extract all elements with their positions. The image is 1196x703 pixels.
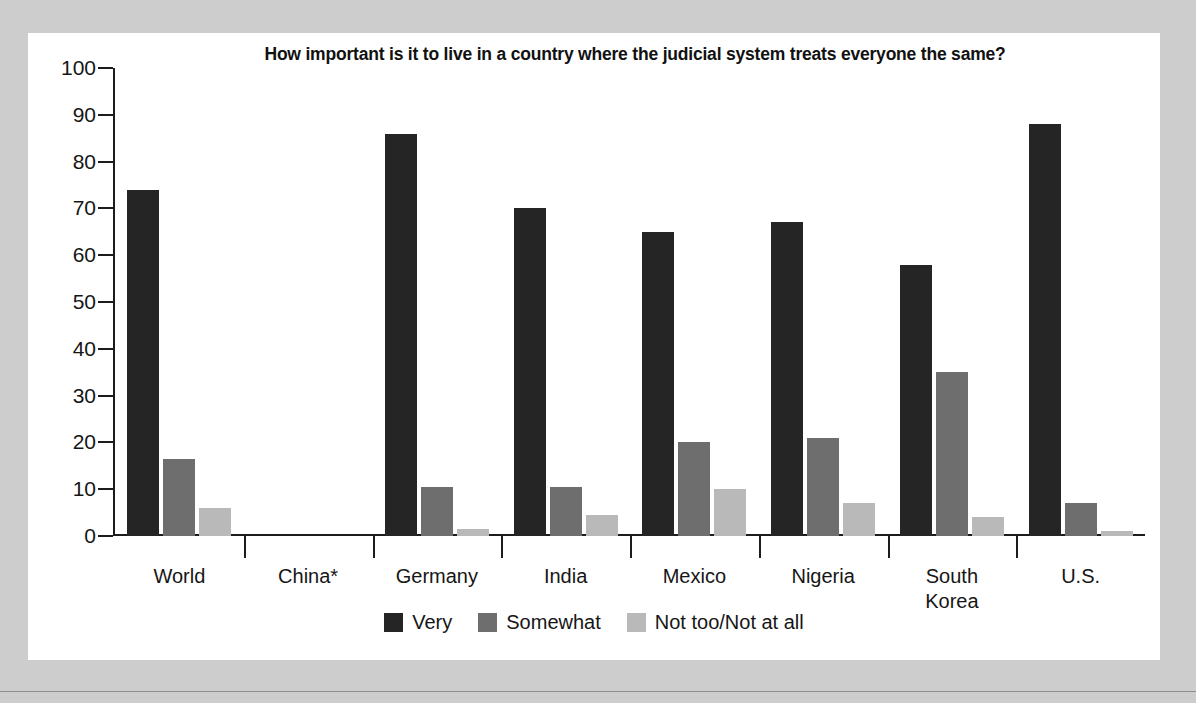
legend-swatch-icon (478, 613, 497, 632)
legend-item: Very (384, 611, 452, 634)
x-axis-group-separator (373, 536, 375, 558)
bar-group (501, 68, 630, 536)
bar-nottoo (972, 517, 1004, 536)
y-axis-tick-label: 10 (34, 477, 96, 501)
bar-group-bars (1016, 68, 1145, 536)
bar-group-bars (759, 68, 888, 536)
x-axis-category-label-line: India (501, 564, 630, 589)
x-axis-category-label: India (501, 564, 630, 589)
y-axis-tick (98, 161, 113, 163)
y-axis-tick-label: 30 (34, 384, 96, 408)
bar-somewhat (936, 372, 968, 536)
bar-group (888, 68, 1017, 536)
x-axis-category-label-line: South (888, 564, 1017, 589)
bar-very (1029, 124, 1061, 536)
legend-item: Not too/Not at all (627, 611, 804, 634)
bar-somewhat (678, 442, 710, 536)
x-axis-category-label: Nigeria (759, 564, 888, 589)
x-axis-category-label-line: Nigeria (759, 564, 888, 589)
bar-somewhat (421, 487, 453, 536)
legend-swatch-icon (384, 613, 403, 632)
y-axis-tick-label: 60 (34, 243, 96, 267)
bar-group (115, 68, 244, 536)
bar-nottoo (586, 515, 618, 536)
y-axis-tick (98, 301, 113, 303)
bar-very (385, 134, 417, 536)
bar-group-bars (630, 68, 759, 536)
x-axis-group-separator (1016, 536, 1018, 558)
legend-label: Very (412, 611, 452, 634)
bar-group-bars (244, 68, 373, 536)
y-axis-tick (98, 254, 113, 256)
x-axis-category-label: World (115, 564, 244, 589)
bar-very (514, 208, 546, 536)
y-axis-tick-label: 100 (34, 56, 96, 80)
bar-group (630, 68, 759, 536)
bar-somewhat (807, 438, 839, 536)
legend-swatch-icon (627, 613, 646, 632)
bar-group (244, 68, 373, 536)
plot-area: 1009080706050403020100 WorldChina*German… (28, 33, 1160, 660)
y-axis-tick (98, 535, 113, 537)
bar-very (900, 265, 932, 536)
y-axis-tick-label: 40 (34, 337, 96, 361)
bar-nottoo (714, 489, 746, 536)
bar-very (127, 190, 159, 536)
y-axis-tick (98, 441, 113, 443)
x-axis-group-separator (244, 536, 246, 558)
page-divider-rule (0, 691, 1196, 692)
bar-nottoo (199, 508, 231, 536)
bar-somewhat (550, 487, 582, 536)
y-axis-tick-label: 70 (34, 196, 96, 220)
bar-group (1016, 68, 1145, 536)
y-axis-tick-label: 20 (34, 430, 96, 454)
y-axis-tick (98, 207, 113, 209)
legend-label: Not too/Not at all (655, 611, 804, 634)
y-axis-tick (98, 395, 113, 397)
legend-label: Somewhat (506, 611, 601, 634)
x-axis-category-label: China* (244, 564, 373, 589)
bar-very (642, 232, 674, 536)
x-axis-category-label: SouthKorea (888, 564, 1017, 614)
x-axis-category-label-line: China* (244, 564, 373, 589)
y-axis-tick (98, 67, 113, 69)
chart-legend: VerySomewhatNot too/Not at all (28, 611, 1160, 634)
bar-nottoo (457, 529, 489, 536)
y-axis-tick (98, 348, 113, 350)
bar-group (373, 68, 502, 536)
bar-group-bars (888, 68, 1017, 536)
x-axis-category-label-line: Germany (373, 564, 502, 589)
bar-group-bars (501, 68, 630, 536)
legend-item: Somewhat (478, 611, 601, 634)
y-axis-tick-label: 80 (34, 150, 96, 174)
bar-nottoo (1101, 531, 1133, 536)
x-axis-category-label-line: U.S. (1016, 564, 1145, 589)
bar-groups (115, 68, 1145, 536)
bar-group-bars (373, 68, 502, 536)
y-axis-tick-label: 50 (34, 290, 96, 314)
x-axis-category-label: Mexico (630, 564, 759, 589)
y-axis-tick-label: 90 (34, 103, 96, 127)
x-axis-group-separator (501, 536, 503, 558)
chart-panel: How important is it to live in a country… (28, 33, 1160, 660)
bar-somewhat (1065, 503, 1097, 536)
x-axis-group-separator (888, 536, 890, 558)
x-axis-group-separator (630, 536, 632, 558)
bar-nottoo (843, 503, 875, 536)
bar-group (759, 68, 888, 536)
bar-somewhat (163, 459, 195, 536)
bar-very (771, 222, 803, 536)
y-axis-tick (98, 114, 113, 116)
x-axis-category-label: Germany (373, 564, 502, 589)
page-root: How important is it to live in a country… (0, 0, 1196, 703)
x-axis-category-label-line: Mexico (630, 564, 759, 589)
x-axis-category-label-line: World (115, 564, 244, 589)
y-axis-tick (98, 488, 113, 490)
x-axis-group-separator (759, 536, 761, 558)
x-axis-category-label: U.S. (1016, 564, 1145, 589)
y-axis-tick-label: 0 (34, 524, 96, 548)
bar-group-bars (115, 68, 244, 536)
